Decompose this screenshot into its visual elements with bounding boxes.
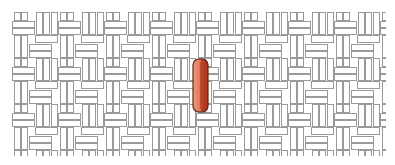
- orange-capsule-icon: [192, 58, 209, 113]
- weave-canvas: [0, 0, 395, 165]
